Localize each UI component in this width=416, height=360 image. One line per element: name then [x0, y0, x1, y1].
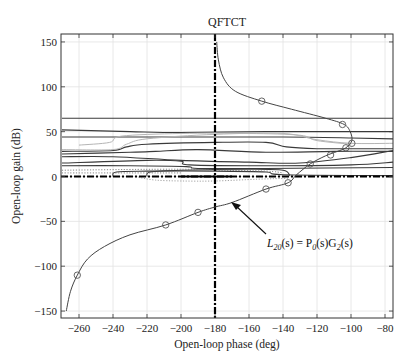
- bound-curve: [62, 160, 393, 165]
- annotation-label: L20(s) = P0(s)G2(s): [266, 237, 353, 252]
- y-tick-label: 150: [41, 36, 58, 48]
- y-tick-label: −100: [34, 260, 57, 272]
- x-tick-label: −100: [340, 322, 363, 334]
- reference-lines: [61, 34, 393, 318]
- x-tick-label: −200: [170, 322, 193, 334]
- x-tick-label: −120: [306, 322, 329, 334]
- x-tick-label: −160: [238, 322, 261, 334]
- y-tick-label: 50: [46, 126, 58, 138]
- x-axis-label: Open-loop phase (deg): [174, 338, 280, 351]
- y-tick-label: 0: [52, 171, 58, 183]
- bound-curve: [62, 130, 393, 133]
- x-tick-label: −260: [68, 322, 91, 334]
- y-tick-label: −150: [34, 305, 57, 317]
- nichols-chart: QFTCT −260−240−220−200−180−160−140−120−1…: [0, 0, 416, 360]
- bound-curve: [62, 137, 393, 139]
- y-axis-label: Open-loop gain (dB): [10, 128, 23, 224]
- x-tick-label: −220: [136, 322, 159, 334]
- x-tick-label: −140: [272, 322, 295, 334]
- y-tick-label: 100: [41, 81, 58, 93]
- annotation-arrow-shaft: [236, 206, 266, 234]
- x-tick-label: −80: [376, 322, 394, 334]
- bound-curve: [139, 177, 289, 181]
- x-tick-label: −180: [204, 322, 227, 334]
- chart-title: QFTCT: [208, 15, 247, 29]
- x-tick-label: −240: [102, 322, 125, 334]
- y-tick-label: −50: [40, 215, 58, 227]
